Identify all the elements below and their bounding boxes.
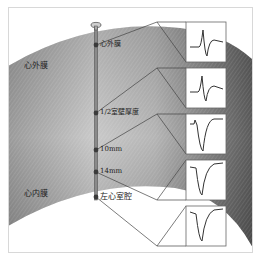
waveform-box-1 (186, 22, 226, 62)
point-label-epicardium: 心外膜 (100, 41, 121, 48)
endocardium-label: 心内膜 (24, 190, 48, 198)
epicardium-label: 心外膜 (24, 62, 48, 70)
point-label-14mm: 14mm (100, 168, 122, 175)
waveform-box-2 (186, 68, 226, 108)
waveform-box-3 (186, 114, 226, 154)
waveform-box-4 (186, 160, 226, 200)
waveform-box-5 (186, 206, 226, 246)
point-label-half-wall: 1/2室壁厚度 (100, 109, 139, 116)
point-label-10mm: 10mm (100, 146, 122, 153)
point-label-lv-cavity: 左心室腔 (100, 193, 132, 201)
electrogram-diagram: 心外膜 心内膜 心外膜 1/2室壁厚度 10mm 14mm 左心室腔 (0, 0, 261, 268)
